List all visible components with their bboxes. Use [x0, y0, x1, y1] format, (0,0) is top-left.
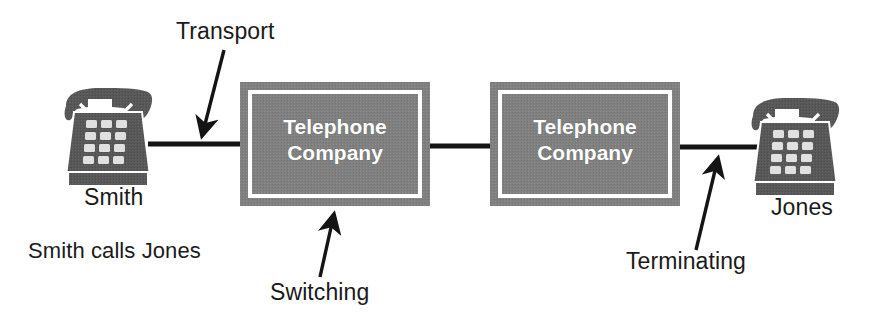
- annotation-label-terminating: Terminating: [626, 250, 746, 273]
- telephone-company-1-label: Telephone Company: [258, 114, 412, 165]
- annotation-label-switching: Switching: [270, 281, 369, 304]
- telephone-company-2-label: Telephone Company: [508, 114, 662, 165]
- arrow-terminating: [696, 158, 718, 250]
- arrow-transport: [202, 50, 224, 136]
- arrow-switching: [320, 214, 334, 277]
- telephone-icon-smith[interactable]: [65, 88, 153, 186]
- diagram-caption: Smith calls Jones: [28, 240, 201, 262]
- company1-line1: Telephone: [258, 114, 412, 140]
- telephone-icon-jones[interactable]: [752, 98, 840, 196]
- annotation-label-transport: Transport: [176, 20, 274, 43]
- diagram-canvas: Telephone Company Telephone Company Smit…: [0, 0, 870, 313]
- company1-line2: Company: [258, 140, 412, 166]
- endpoint-label-jones: Jones: [771, 196, 833, 219]
- company2-line2: Company: [508, 140, 662, 166]
- endpoint-label-smith: Smith: [84, 186, 143, 209]
- company2-line1: Telephone: [508, 114, 662, 140]
